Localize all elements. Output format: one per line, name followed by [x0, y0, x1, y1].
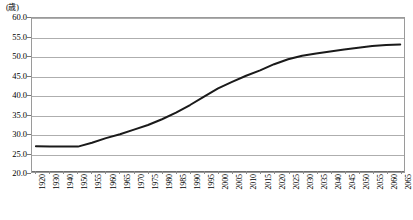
x-axis-tick-label: 2015: [264, 174, 273, 190]
x-axis-tick: [204, 171, 205, 174]
x-axis-tick-label: 1995: [207, 174, 216, 190]
x-axis-tick-label: 1990: [193, 174, 202, 190]
x-axis-tick: [359, 171, 360, 174]
x-axis-tick-label: 2050: [362, 174, 371, 190]
x-axis-tick: [148, 171, 149, 174]
x-axis-tick: [176, 171, 177, 174]
x-axis-tick: [317, 171, 318, 174]
x-axis-tick: [162, 171, 163, 174]
x-axis-tick-label: 1930: [52, 174, 61, 190]
x-axis-tick-label: 1965: [123, 174, 132, 190]
x-axis-tick: [218, 171, 219, 174]
x-axis-tick: [331, 171, 332, 174]
x-axis-tick-label: 1920: [38, 174, 47, 190]
y-axis-unit-label: (歳): [6, 1, 19, 12]
x-axis-tick-label: 2055: [376, 174, 385, 190]
x-axis-tick: [289, 171, 290, 174]
x-axis-tick-label: 1955: [94, 174, 103, 190]
x-axis-tick: [134, 171, 135, 174]
x-axis-tick: [303, 171, 304, 174]
x-axis-tick-label: 2060: [390, 174, 399, 190]
x-axis-tick-label: 1980: [165, 174, 174, 190]
x-axis-tick: [260, 171, 261, 174]
y-axis-tick-label: 25.0: [0, 149, 27, 159]
x-axis-tick: [274, 171, 275, 174]
x-axis-tick-label: 2030: [306, 174, 315, 190]
x-axis-tick: [119, 171, 120, 174]
x-axis-tick-label: 1960: [109, 174, 118, 190]
x-axis-tick: [190, 171, 191, 174]
x-axis-tick-label: 1940: [66, 174, 75, 190]
x-axis-tick-label: 2000: [221, 174, 230, 190]
y-axis-tick-label: 50.0: [0, 51, 27, 61]
y-axis-tick-label: 40.0: [0, 90, 27, 100]
x-axis-tick: [49, 171, 50, 174]
x-axis-tick: [35, 171, 36, 174]
x-axis-tick: [345, 171, 346, 174]
x-axis-tick-label: 1975: [151, 174, 160, 190]
x-axis-tick-label: 2045: [348, 174, 357, 190]
x-axis-labels: 1920193019401950195519601965197019751980…: [31, 174, 405, 220]
y-axis-tick-label: 35.0: [0, 110, 27, 120]
x-axis-tick: [246, 171, 247, 174]
y-axis-tick-label: 55.0: [0, 32, 27, 42]
x-axis-tick: [232, 171, 233, 174]
x-axis-tick-label: 2005: [235, 174, 244, 190]
y-axis-tick-label: 60.0: [0, 12, 27, 22]
x-axis-tick-label: 1985: [179, 174, 188, 190]
x-axis-tick-label: 1970: [137, 174, 146, 190]
x-axis-tick: [63, 171, 64, 174]
x-axis-tick-label: 2025: [292, 174, 301, 190]
x-axis-tick: [387, 171, 388, 174]
x-axis-tick: [373, 171, 374, 174]
x-axis-tick: [401, 171, 402, 174]
x-axis-tick: [105, 171, 106, 174]
x-axis-tick-label: 1950: [80, 174, 89, 190]
series-line-average-age: [32, 18, 404, 172]
y-axis-tick-label: 30.0: [0, 129, 27, 139]
y-axis-tick-label: 20.0: [0, 168, 27, 178]
x-axis-tick: [91, 171, 92, 174]
x-axis-tick-label: 2035: [320, 174, 329, 190]
y-axis-tick-label: 45.0: [0, 71, 27, 81]
x-axis-tick-label: 2040: [334, 174, 343, 190]
x-axis-tick-label: 2065: [404, 174, 413, 190]
plot-area: [31, 17, 405, 173]
x-axis-tick-label: 2010: [249, 174, 258, 190]
x-axis-tick: [77, 171, 78, 174]
x-axis-tick-label: 2020: [278, 174, 287, 190]
